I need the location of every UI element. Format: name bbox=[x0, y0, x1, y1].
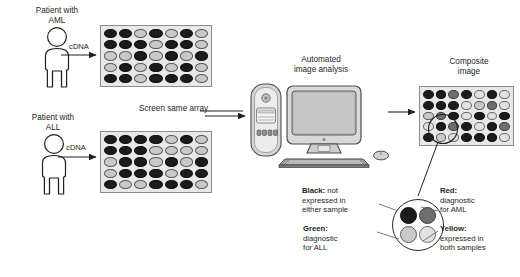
array-spot bbox=[119, 180, 132, 189]
array-spot bbox=[165, 180, 178, 189]
array-spot bbox=[448, 112, 459, 121]
array-spot bbox=[134, 135, 147, 144]
computer-tower-icon bbox=[249, 82, 283, 162]
legend-yellow: Yellow: expressed in both samples bbox=[440, 224, 520, 253]
array-spot bbox=[149, 146, 162, 155]
array-spot bbox=[474, 133, 485, 142]
magnified-spot bbox=[400, 226, 417, 243]
legend-green-body: diagnostic for ALL bbox=[303, 234, 338, 253]
array-spot bbox=[436, 122, 447, 131]
array-spot bbox=[119, 135, 132, 144]
array-spot bbox=[195, 51, 208, 60]
array-spot bbox=[180, 63, 193, 72]
array-spot bbox=[119, 146, 132, 155]
array-spot bbox=[165, 29, 178, 38]
array-spot bbox=[180, 146, 193, 155]
array-spot bbox=[474, 101, 485, 110]
array-spot bbox=[195, 146, 208, 155]
array-spot bbox=[474, 122, 485, 131]
composite-array-panel bbox=[419, 86, 514, 146]
array-spot bbox=[149, 63, 162, 72]
array-spot bbox=[134, 169, 147, 178]
composite-image-label: Composite image bbox=[428, 57, 510, 77]
array-spot bbox=[423, 101, 434, 110]
array-spot bbox=[134, 157, 147, 166]
array-spot bbox=[180, 74, 193, 83]
array-spot bbox=[448, 101, 459, 110]
array-spot bbox=[423, 122, 434, 131]
computer-mouse-icon bbox=[372, 147, 390, 165]
array-spot bbox=[423, 112, 434, 121]
array-spot bbox=[119, 169, 132, 178]
array-spot bbox=[149, 40, 162, 49]
array-spot bbox=[499, 133, 510, 142]
array-spot bbox=[149, 180, 162, 189]
legend-red-body: diagnostic for AML bbox=[440, 196, 475, 215]
array-spot bbox=[134, 40, 147, 49]
automated-analysis-label: Automated image analysis bbox=[279, 55, 363, 75]
array-spot bbox=[180, 40, 193, 49]
all-array-panel bbox=[100, 131, 212, 193]
array-spot bbox=[487, 112, 498, 121]
array-spot bbox=[499, 112, 510, 121]
aml-array-panel bbox=[100, 25, 212, 87]
array-spot bbox=[104, 29, 117, 38]
array-spot bbox=[149, 74, 162, 83]
array-spot bbox=[195, 40, 208, 49]
array-spot bbox=[461, 90, 472, 99]
figure-canvas: Patient with AML cDNA Patient with ALL c… bbox=[0, 0, 520, 277]
array-spot bbox=[104, 135, 117, 144]
cdna-label-all: cDNA bbox=[55, 143, 97, 152]
array-spot bbox=[134, 29, 147, 38]
array-spot bbox=[104, 157, 117, 166]
legend-black: Black: not expressed in either sample bbox=[302, 186, 378, 215]
patient-aml-label: Patient with AML bbox=[14, 6, 100, 26]
array-spot bbox=[423, 133, 434, 142]
array-spot bbox=[104, 180, 117, 189]
array-spot bbox=[165, 63, 178, 72]
array-spot bbox=[461, 122, 472, 131]
screen-same-array-note: Screen same array bbox=[139, 104, 217, 114]
array-spot bbox=[149, 51, 162, 60]
array-spot bbox=[487, 122, 498, 131]
legend-red-head: Red: bbox=[440, 186, 457, 195]
array-spot bbox=[134, 51, 147, 60]
array-spot bbox=[180, 51, 193, 60]
array-spot bbox=[104, 40, 117, 49]
array-spot bbox=[474, 90, 485, 99]
patient-all-label: Patient with ALL bbox=[10, 113, 96, 133]
array-spot bbox=[423, 90, 434, 99]
array-spot bbox=[149, 169, 162, 178]
magnified-spot bbox=[400, 207, 417, 224]
array-spot bbox=[180, 157, 193, 166]
computer-keyboard-icon bbox=[278, 155, 370, 173]
array-spot bbox=[180, 29, 193, 38]
legend-red: Red: diagnostic for AML bbox=[440, 186, 516, 215]
array-spot bbox=[119, 29, 132, 38]
array-spot bbox=[448, 122, 459, 131]
array-spot bbox=[104, 51, 117, 60]
array-spot bbox=[448, 133, 459, 142]
legend-yellow-head: Yellow: bbox=[440, 224, 467, 233]
legend-black-head: Black: bbox=[302, 186, 325, 195]
array-spot bbox=[195, 157, 208, 166]
array-spot bbox=[134, 63, 147, 72]
magnified-spot bbox=[419, 226, 436, 243]
array-spot bbox=[119, 74, 132, 83]
array-spot bbox=[119, 51, 132, 60]
array-spot bbox=[195, 74, 208, 83]
array-spot bbox=[436, 90, 447, 99]
legend-yellow-body: expressed in both samples bbox=[440, 234, 486, 253]
array-spot bbox=[119, 40, 132, 49]
array-spot bbox=[499, 122, 510, 131]
composite-detail-magnifier bbox=[392, 199, 444, 251]
array-spot bbox=[499, 90, 510, 99]
array-spot bbox=[119, 63, 132, 72]
patient-aml-figure bbox=[35, 26, 79, 88]
array-spot bbox=[436, 101, 447, 110]
array-spot bbox=[195, 29, 208, 38]
array-spot bbox=[180, 135, 193, 144]
array-spot bbox=[474, 112, 485, 121]
array-spot bbox=[180, 180, 193, 189]
array-spot bbox=[487, 133, 498, 142]
